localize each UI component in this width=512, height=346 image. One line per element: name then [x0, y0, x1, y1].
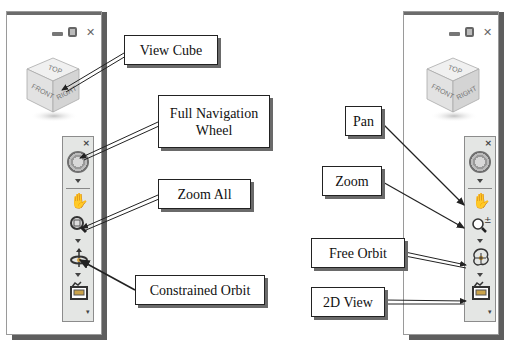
callout-label: 2D View — [323, 294, 373, 311]
callout-label: Constrained Orbit — [150, 282, 251, 299]
callout-label-line1: Full Navigation — [170, 105, 258, 122]
callout-2d-view: 2D View — [311, 287, 385, 317]
callout-label: Zoom — [335, 173, 368, 190]
callout-pan: Pan — [345, 106, 382, 136]
callout-label: View Cube — [140, 42, 203, 59]
callout-label: Pan — [353, 113, 374, 130]
callout-label: Free Orbit — [329, 245, 387, 262]
callout-label: Zoom All — [177, 186, 231, 203]
callout-free-orbit: Free Orbit — [311, 238, 405, 268]
callout-constrained-orbit: Constrained Orbit — [135, 275, 265, 305]
callout-label-line2: Wheel — [196, 122, 233, 139]
callout-zoom: Zoom — [322, 166, 382, 196]
callout-view-cube: View Cube — [124, 35, 218, 65]
callout-full-navigation-wheel: Full Navigation Wheel — [158, 95, 270, 148]
callout-zoom-all: Zoom All — [158, 179, 251, 209]
